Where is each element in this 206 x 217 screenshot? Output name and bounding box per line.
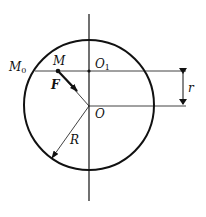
radius-R-line xyxy=(52,106,89,158)
label-M: M xyxy=(53,55,65,67)
point-M xyxy=(56,69,61,74)
force-F-vector xyxy=(58,71,77,91)
label-M0: M0 xyxy=(9,61,26,75)
point-O1 xyxy=(87,69,90,72)
label-O: O xyxy=(95,108,105,120)
label-F: F xyxy=(51,79,60,91)
label-O1: O1 xyxy=(95,58,110,72)
label-R: R xyxy=(70,134,79,146)
label-r: r xyxy=(188,82,194,94)
